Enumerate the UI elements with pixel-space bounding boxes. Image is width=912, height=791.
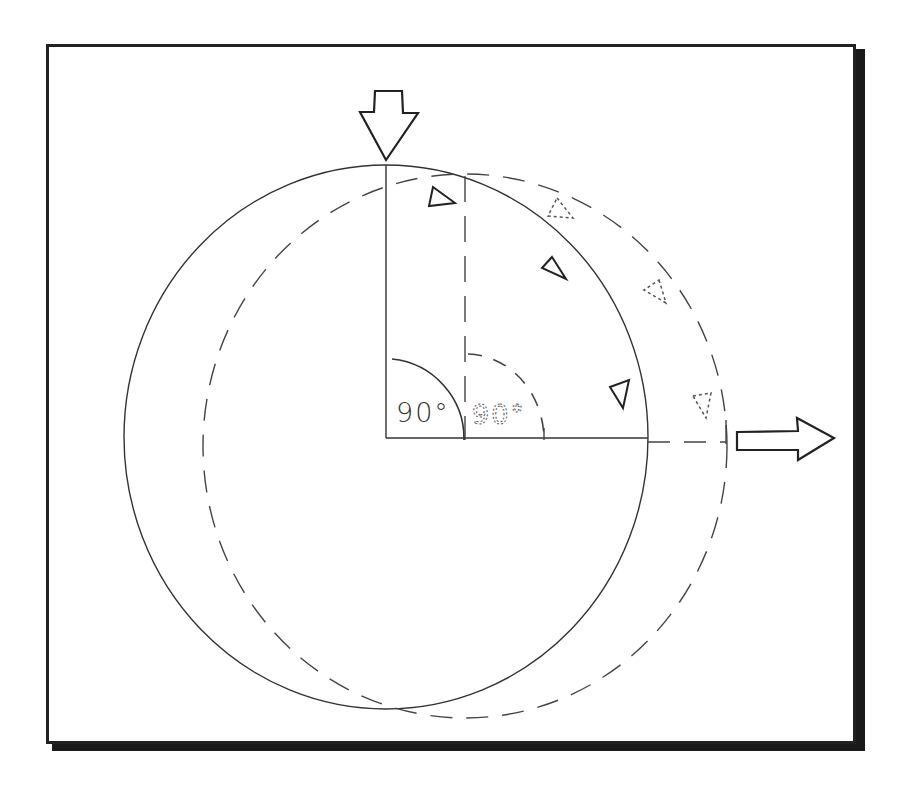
angle-label-solid: 90°	[396, 397, 450, 428]
output-arrow-right-icon	[737, 418, 834, 460]
direction-marker-solid-2-icon	[542, 257, 566, 279]
direction-marker-dashed-3-icon	[693, 393, 711, 418]
input-arrow-down-icon	[360, 91, 418, 160]
direction-marker-dashed-2-icon	[644, 280, 666, 303]
diagram-canvas: 90° 90°	[0, 0, 912, 791]
diagram-svg: 90° 90°	[0, 0, 912, 791]
direction-marker-solid-3-icon	[610, 380, 629, 408]
direction-marker-solid-1-icon	[429, 187, 455, 206]
direction-marker-dashed-1-icon	[548, 198, 573, 218]
angle-label-dashed: 90°	[472, 399, 526, 430]
